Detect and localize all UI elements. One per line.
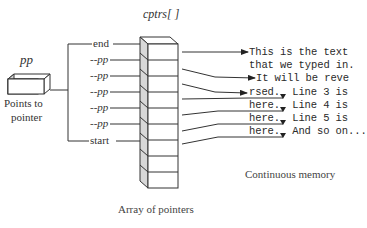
array-name: cptrs[ ] <box>143 8 179 20</box>
pointer-var-name: pp <box>20 53 33 66</box>
memory-line-2: that we typed in. <box>249 60 354 71</box>
memory-rest: Line 3 is <box>286 86 348 98</box>
memory-line-1: This is the text <box>249 47 348 58</box>
label-decrement-2: --pp <box>90 70 108 81</box>
pointer-array <box>140 37 178 188</box>
memory-line-4: rsed. Line 3 is <box>249 87 348 98</box>
memory-underlined: here. <box>249 112 280 124</box>
pointer-caption-line-2: pointer <box>11 112 42 123</box>
pointer-box <box>8 74 50 94</box>
array-caption: Array of pointers <box>118 204 194 215</box>
label-start: start <box>90 135 109 146</box>
memory-underlined: here. <box>249 125 280 137</box>
memory-line-6: here. Line 5 is <box>249 113 348 124</box>
memory-rest: Line 4 is <box>286 99 348 111</box>
label-ticks <box>110 44 140 141</box>
memory-line-5: here. Line 4 is <box>249 100 348 111</box>
label-decrement-4: --pp <box>90 102 108 113</box>
bracket-connector <box>50 44 92 141</box>
memory-underlined: rsed. <box>249 86 280 98</box>
label-decrement-3: --pp <box>90 86 108 97</box>
memory-line-3: It will be reve <box>256 73 349 84</box>
label-decrement-1: --pp <box>90 54 108 65</box>
memory-rest: And so on... <box>286 125 367 137</box>
memory-rest: Line 5 is <box>286 112 348 124</box>
label-decrement-5: --pp <box>90 118 108 129</box>
memory-underlined: here. <box>249 99 280 111</box>
memory-line-7: here. And so on... <box>249 126 367 137</box>
pointer-caption-line-1: Points to <box>4 98 43 109</box>
memory-caption: Continuous memory <box>245 169 335 180</box>
label-end: end <box>93 38 109 49</box>
